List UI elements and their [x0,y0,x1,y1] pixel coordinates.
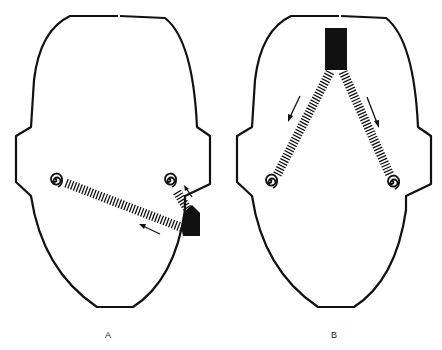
sound-source-b [325,28,347,70]
wave-to-left-ear-a [66,183,183,228]
arrow-down-left-icon [288,96,300,122]
wave-to-left-ear-b [277,72,330,175]
wave-to-right-ear-b [343,72,390,175]
arrow-left-icon [139,224,160,234]
ear-left-spiral-icon [266,175,277,188]
ear-left-spiral-icon [51,174,62,187]
panel-label-a: A [98,330,118,340]
panel-a [16,16,210,307]
ear-right-spiral-icon [165,174,176,187]
panel-b [237,16,431,307]
ear-right-spiral-icon [388,176,399,189]
panel-label-b: B [324,330,344,340]
head-outline-a [16,16,210,307]
